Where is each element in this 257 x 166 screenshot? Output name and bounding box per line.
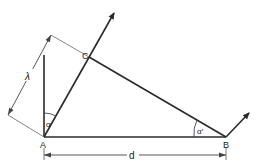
ray-b-arrow bbox=[226, 113, 249, 137]
geometry-diagram: λ d α α′ A B C bbox=[0, 0, 257, 166]
point-label-c: C bbox=[82, 51, 89, 61]
lambda-extension-a bbox=[8, 115, 44, 137]
point-label-b: B bbox=[223, 140, 229, 150]
angle-arc-alpha bbox=[44, 113, 56, 116]
lambda-label: λ bbox=[24, 71, 30, 82]
d-label: d bbox=[129, 150, 135, 161]
line-cb bbox=[89, 57, 226, 137]
alpha-prime-label-b: α′ bbox=[197, 127, 204, 136]
diagram-canvas: λ d α α′ A B C bbox=[0, 0, 257, 166]
point-label-a: A bbox=[40, 140, 46, 150]
ray-a-arrow bbox=[44, 13, 114, 137]
alpha-label-a: α bbox=[46, 120, 51, 129]
